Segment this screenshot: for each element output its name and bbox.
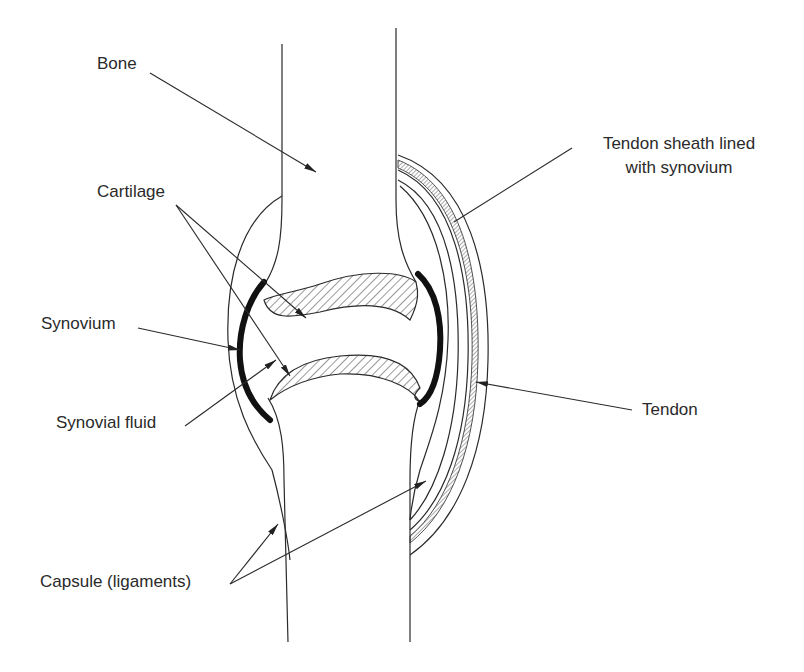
label-capsule: Capsule (ligaments) bbox=[40, 572, 191, 592]
upper-bone-left-edge bbox=[266, 44, 282, 282]
capsule-leader-left bbox=[230, 524, 278, 584]
cartilage-leader-upper bbox=[176, 205, 306, 318]
capsule-leader-right bbox=[230, 481, 426, 584]
cartilage-leader-lower bbox=[176, 205, 290, 376]
synovium-right bbox=[418, 274, 440, 404]
label-synovium: Synovium bbox=[41, 314, 116, 334]
cartilage-lower bbox=[270, 355, 420, 402]
label-tendon-sheath-line2: with synovium bbox=[584, 158, 774, 178]
cartilage-upper bbox=[264, 273, 418, 320]
capsule-left bbox=[228, 196, 290, 560]
tendon-leader bbox=[476, 382, 632, 410]
synovium-leader bbox=[138, 328, 240, 350]
bone-leader bbox=[150, 73, 316, 172]
label-bone: Bone bbox=[97, 54, 137, 74]
tendon-sheath-leader bbox=[454, 148, 572, 222]
label-tendon: Tendon bbox=[642, 400, 698, 420]
label-cartilage: Cartilage bbox=[97, 182, 165, 202]
label-tendon-sheath-line1: Tendon sheath lined bbox=[584, 134, 774, 154]
lower-bone-left-edge bbox=[268, 398, 288, 642]
label-synovial-fluid: Synovial fluid bbox=[56, 413, 156, 433]
